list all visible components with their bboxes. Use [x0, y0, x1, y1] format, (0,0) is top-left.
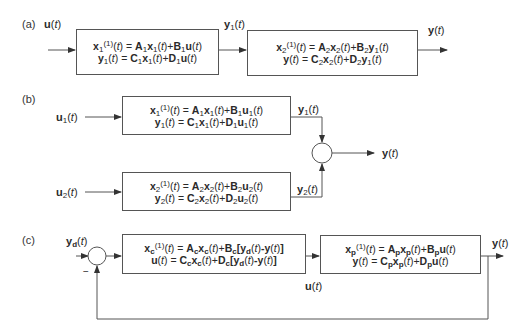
block-b1: x1(1)(t) = A1x1(t)+B1u1(t) y1(t) = C1x1(… — [122, 96, 291, 135]
block-controller: xc(1)(t) = Acxc(t)+Bc[yd(t)-y(t)] u(t) =… — [122, 234, 306, 274]
wire-b-y1 — [291, 117, 322, 142]
output-equation: u(t) = Ccxc(t)+Dc[yd(t)-y(t)] — [151, 254, 277, 266]
output-equation: y(t) = C2x2(t)+D2y1(t) — [283, 53, 381, 65]
block-a2: x2(1)(t) = A2x2(t)+B2y1(t) y(t) = C2x2(t… — [247, 30, 418, 76]
signal-label-u2: u2(t) — [56, 186, 78, 198]
signal-label-y2: y2(t) — [297, 183, 318, 195]
minus-sign: − — [83, 266, 89, 278]
signal-label-u: u(t) — [305, 280, 322, 292]
signal-label-u1: u1(t) — [56, 111, 78, 123]
output-equation: y2(t) = C2x2(t)+D2u2(t) — [155, 192, 258, 204]
state-equation: xp(1)(t) = Apxp(t)+Bpu(t) — [345, 243, 456, 255]
signal-label-y: y(t) — [382, 147, 399, 159]
output-equation: y(t) = Cpxp(t)+Dpu(t) — [353, 255, 449, 267]
panel-b-tag: (b) — [22, 93, 35, 105]
block-b2: x2(1)(t) = A2x2(t)+B2u2(t) y2(t) = C2x2(… — [122, 172, 291, 211]
signal-label-y1: y1(t) — [298, 103, 319, 115]
output-equation: y1(t) = C1x1(t)+D1u(t) — [98, 52, 197, 64]
signal-label-u: u(t) — [44, 18, 61, 30]
summing-junction-c — [88, 247, 106, 265]
block-a1: x1(1)(t) = A1x1(t)+B1u(t) y1(t) = C1x1(t… — [76, 29, 219, 75]
state-equation: x1(1)(t) = A1x1(t)+B1u(t) — [93, 40, 202, 52]
state-equation: xc(1)(t) = Acxc(t)+Bc[yd(t)-y(t)] — [144, 242, 283, 254]
panel-a-tag: (a) — [22, 18, 35, 30]
signal-label-yd: yd(t) — [66, 235, 87, 247]
state-equation: x2(1)(t) = A2x2(t)+B2u2(t) — [150, 180, 263, 192]
summing-junction-b — [312, 143, 332, 163]
block-plant: xp(1)(t) = Apxp(t)+Bpu(t) y(t) = Cpxp(t)… — [320, 235, 481, 274]
output-equation: y1(t) = C1x1(t)+D1u1(t) — [155, 116, 258, 128]
signal-label-y1: y1(t) — [224, 18, 245, 30]
state-equation: x1(1)(t) = A1x1(t)+B1u1(t) — [150, 104, 263, 116]
state-equation: x2(1)(t) = A2x2(t)+B2y1(t) — [276, 41, 389, 53]
signal-label-y: y(t) — [492, 237, 509, 249]
panel-c-tag: (c) — [22, 234, 35, 246]
signal-label-y: y(t) — [428, 24, 445, 36]
